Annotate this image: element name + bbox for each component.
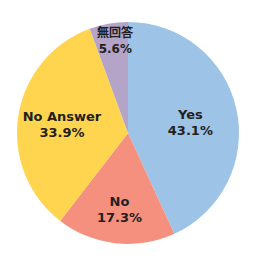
slice-label-name: No (110, 194, 130, 209)
slice-label-percent: 17.3% (97, 210, 142, 225)
slice-label-percent: 33.9% (39, 125, 84, 140)
slice-label-percent: 5.6% (99, 42, 132, 56)
pie-chart: Yes43.1%No17.3%No Answer33.9%無回答5.6% (0, 0, 256, 259)
slice-label-name: 無回答 (97, 25, 134, 40)
slice-label-name: No Answer (23, 109, 102, 124)
slice-label-percent: 43.1% (168, 123, 213, 138)
slice-label-name: Yes (177, 107, 203, 122)
